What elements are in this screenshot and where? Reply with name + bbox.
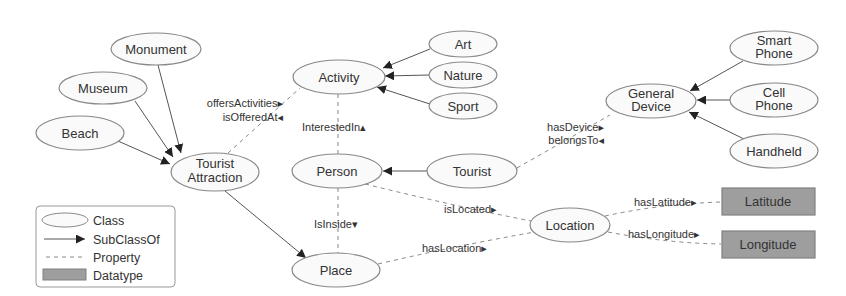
label-interested-in: InterestedIn▴ (302, 121, 366, 133)
edge-tourist-attraction-to-place (225, 191, 306, 258)
class-node-place[interactable]: Place (292, 253, 380, 287)
datatype-label: Latitude (745, 194, 791, 209)
class-label: Location (545, 218, 594, 233)
class-node-activity[interactable]: Activity (293, 60, 385, 94)
class-node-monument[interactable]: Monument (111, 33, 201, 65)
legend-datatype-icon (43, 269, 86, 280)
datatype-node-longitude[interactable]: Longitude (722, 231, 815, 258)
class-label-line1: Tourist (196, 156, 235, 171)
class-node-beach[interactable]: Beach (36, 116, 124, 150)
class-node-sport[interactable]: Sport (429, 93, 497, 119)
class-label: Tourist (453, 164, 492, 179)
edge-sport-to-activity (377, 87, 430, 104)
legend: Class SubClassOf Property Datatype (36, 206, 175, 287)
class-node-handheld[interactable]: Handheld (730, 134, 818, 168)
edge-art-to-activity (383, 49, 430, 68)
class-label: Monument (125, 42, 187, 57)
class-node-person[interactable]: Person (292, 154, 382, 188)
class-label: Activity (318, 70, 360, 85)
class-node-cell-phone[interactable]: Cell Phone (730, 83, 818, 117)
label-has-longitude: hasLongitude▸ (628, 228, 700, 240)
class-node-tourist-attraction[interactable]: Tourist Attraction (171, 153, 259, 191)
class-node-general-device[interactable]: General Device (606, 84, 696, 118)
class-label: Place (320, 263, 353, 278)
legend-class-label: Class (93, 214, 124, 228)
class-label-line2: Attraction (188, 170, 243, 185)
class-node-museum[interactable]: Museum (59, 72, 147, 104)
class-node-art[interactable]: Art (429, 31, 497, 57)
label-has-latitude: hasLatitude▸ (634, 196, 697, 208)
edge-handheld-to-general-device (689, 112, 744, 139)
class-label: Person (316, 164, 357, 179)
ontology-diagram: offersActivities▸ isOfferedAt◂ Intereste… (0, 0, 846, 296)
edge-museum-to-tourist-attraction (135, 101, 173, 157)
class-node-nature[interactable]: Nature (429, 62, 497, 88)
label-is-inside: IsInside▾ (314, 218, 358, 230)
class-label: Handheld (746, 144, 802, 159)
legend-class-icon (42, 213, 88, 227)
class-label: Art (455, 37, 472, 52)
label-is-offered-at: isOfferedAt◂ (223, 111, 284, 123)
class-label: Beach (62, 126, 99, 141)
datatype-label: Longitude (739, 237, 796, 252)
class-label: Sport (447, 99, 478, 114)
label-offers-activities: offersActivities▸ (207, 97, 284, 109)
datatype-node-latitude[interactable]: Latitude (722, 188, 815, 215)
class-label-line2: Phone (755, 98, 793, 113)
label-is-located: isLocated▸ (444, 203, 497, 215)
label-has-location: hasLocation▸ (422, 242, 487, 254)
label-belongs-to: belongsTo◂ (548, 134, 604, 146)
legend-property-label: Property (93, 251, 141, 265)
edge-beach-to-tourist-attraction (118, 141, 170, 164)
class-label-line2: Phone (755, 46, 793, 61)
legend-subclass-label: SubClassOf (93, 233, 160, 247)
edge-smartphone-to-general-device (690, 61, 743, 91)
class-label: Nature (443, 68, 482, 83)
class-node-location[interactable]: Location (530, 208, 610, 242)
class-node-tourist[interactable]: Tourist (427, 154, 517, 188)
edge-nature-to-activity (385, 75, 429, 76)
class-label: Museum (78, 81, 128, 96)
class-label-line2: Device (631, 99, 671, 114)
label-has-device: hasDevice▸ (547, 121, 604, 133)
class-node-smart-phone[interactable]: Smart Phone (730, 31, 818, 65)
legend-datatype-label: Datatype (93, 269, 143, 283)
